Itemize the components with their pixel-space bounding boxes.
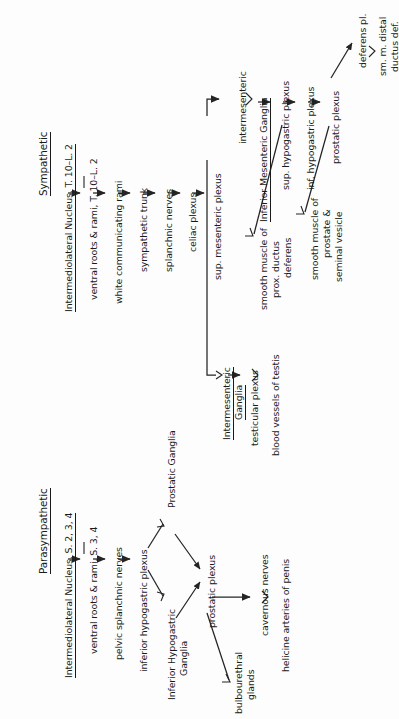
line-ihp-to-ih-ganglia (148, 570, 163, 596)
label-prostatic-ganglia: Prostatic Ganglia (167, 430, 176, 508)
label-inf-hypogastric-plexus: inf. hypogastric plexus (306, 87, 315, 190)
branch-to-intermesenteric (207, 99, 219, 116)
label-helicine-arteries-of-penis: helicine arteries of penis (281, 559, 290, 672)
label-smooth-muscle-prox-3: deferens (283, 238, 292, 278)
label-deferens-pl: deferens pl. (358, 14, 367, 68)
label-smooth-muscle-prox-2: prox. ductus (271, 241, 280, 298)
heading-parasympathetic: Parasympathetic (38, 488, 51, 574)
label-para-pelvic-splanchnic-nerves: pelvic splanchnic nerves (114, 547, 123, 660)
label-intermesenteric-ganglia-2: Ganglia (234, 385, 246, 420)
label-para-prostatic-plexus: prostatic plexus (207, 555, 216, 628)
label-inferior-mesenteric-ganglia: Inferior Mesenteric Ganglia (259, 98, 271, 222)
line-prostatic-ganglia-to-plexus (175, 534, 200, 569)
fork-ih-ganglia (157, 592, 164, 601)
label-smooth-muscle-prox-1: smooth muscle of (259, 228, 268, 310)
fork-prostate-sv (296, 206, 304, 214)
label-smooth-muscle-prostate-3: seminal vesicle (334, 212, 343, 283)
line-ih-ganglia-to-plexus (176, 582, 200, 618)
autonomic-innervation-diagram: Sympathetic Intermediolateral Nucleus, T… (0, 0, 399, 719)
label-smooth-muscle-prostate-2: prostate & (322, 210, 331, 258)
label-smooth-muscle-prostate-1: smooth muscle of (310, 198, 319, 280)
label-bulbourethral-1: bulbourethral (234, 652, 243, 714)
label-sym-sup-mesenteric-plexus: sup. mesenteric plexus (213, 173, 222, 280)
line-ihp-to-prostatic-ganglia (148, 524, 163, 548)
label-sup-hypogastric-plexus: sup. hypogastric plexus (281, 81, 290, 190)
label-bulbourethral-2: glands (246, 670, 255, 700)
label-para-inferior-hypogastric-plexus: inferior hypogastric plexus (139, 549, 148, 672)
branch-to-intermesenteric-ganglia (207, 346, 216, 375)
label-sym-celiac-plexus: celiac plexus (188, 193, 197, 252)
fork-prox-ductus (245, 228, 253, 236)
label-sym-intermediolateral-nucleus: Intermediolateral Nucleus, T. 10–L. 2 (64, 144, 76, 312)
label-sym-ventral-roots-rami: ventral roots & rami, T. 10–L. 2 (89, 158, 98, 300)
line-prostatic-to-deferens (331, 43, 352, 78)
label-sym-sympathetic-trunk: sympathetic trunk (139, 188, 148, 272)
fork-prostatic-ganglia (157, 519, 164, 527)
label-inferior-hypogastric-ganglia-2: Ganglia (179, 641, 188, 676)
label-sm-m-distal: sm. m. distal (378, 17, 387, 76)
label-inferior-hypogastric-ganglia-1: Inferior Hypogastric (167, 609, 176, 700)
label-ductus-def: ductus def. (390, 21, 399, 72)
label-testicular-plexus: testicular plexus (250, 370, 259, 446)
fork-deferens (369, 46, 375, 57)
label-para-ventral-roots-rami: ventral roots & rami, S. 3, 4 (89, 527, 98, 654)
label-sym-splanchnic-nerves: splanchnic nerves (164, 189, 173, 272)
label-blood-vessels-of-testis: blood vessels of testis (271, 355, 280, 457)
label-para-intermediolateral-nucleus: Intermediolateral Nucleus, S. 2, 3, 4 (64, 513, 76, 678)
label-cavernous-nerves: cavernous nerves (260, 554, 269, 636)
label-sym-prostatic-plexus: prostatic plexus (331, 91, 340, 164)
label-sym-white-communicating-rami: white communicating rami (114, 181, 123, 304)
heading-sympathetic: Sympathetic (38, 132, 51, 196)
label-intermesenteric: intermesenteric (238, 71, 247, 144)
